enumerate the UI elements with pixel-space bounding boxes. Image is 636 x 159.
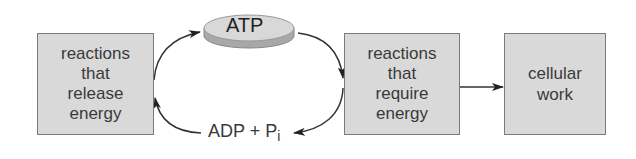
- reactions-require-energy-box: reactions that require energy: [344, 33, 460, 135]
- box-line: that: [388, 64, 416, 84]
- arrow-release-to-atp: [154, 32, 200, 80]
- box-line: energy: [70, 104, 122, 124]
- reactions-release-energy-box: reactions that release energy: [37, 33, 154, 135]
- arrow-adp-to-release: [155, 98, 201, 133]
- box-line: work: [537, 84, 573, 105]
- box-line: energy: [376, 104, 428, 124]
- adp-pi-subscript: i: [277, 128, 280, 144]
- atp-label: ATP: [226, 14, 263, 37]
- box-line: reactions: [368, 44, 437, 64]
- arrow-require-to-adp: [294, 88, 343, 133]
- cellular-work-box: cellular work: [504, 33, 606, 135]
- box-line: cellular: [528, 63, 582, 84]
- adp-pi-text: ADP + P: [208, 121, 277, 141]
- box-line: reactions: [61, 44, 130, 64]
- arrow-atp-to-require: [298, 33, 343, 78]
- adp-pi-label: ADP + Pi: [208, 121, 280, 144]
- box-line: that: [81, 64, 109, 84]
- box-line: release: [68, 84, 124, 104]
- box-line: require: [376, 84, 429, 104]
